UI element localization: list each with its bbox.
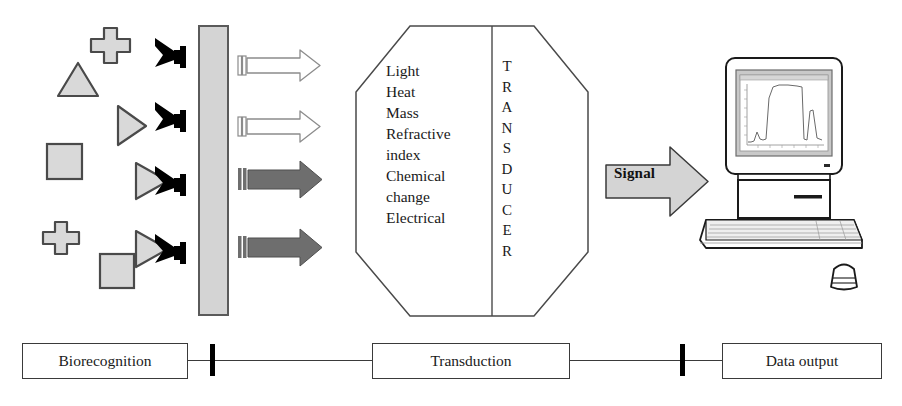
arrow-dark-1 (238, 161, 322, 198)
transducer-letter-5: D (496, 159, 518, 180)
computer-mouse (831, 265, 857, 290)
transducer-letter-1: R (496, 77, 518, 98)
transducer-letter-4: S (496, 138, 518, 159)
data-output-computer (694, 54, 884, 304)
transducer-letter-0: T (496, 56, 518, 77)
transducer-letter-2: A (496, 97, 518, 118)
analyte-triangle-up (58, 63, 98, 96)
transducer-letter-3: N (496, 118, 518, 139)
flow-step-transduction[interactable]: Transduction (372, 343, 570, 379)
flow-tick-2 (680, 344, 685, 376)
computer-base (738, 174, 830, 218)
antibody-1 (155, 38, 186, 68)
transducer-letter-7: C (496, 200, 518, 221)
flow-step-data-output[interactable]: Data output (722, 343, 882, 379)
transducer-letter-9: R (496, 241, 518, 262)
arrow-dark-2 (238, 229, 322, 266)
transducer-vertical-label: T R A N S D U C E R (496, 56, 518, 261)
antibody-2 (155, 102, 186, 132)
transducer-letter-8: E (496, 220, 518, 241)
transducer-properties-list: Light Heat Mass Refractive index Chemica… (386, 60, 496, 228)
analyte-square-upper (47, 144, 82, 179)
transduction-arrow-layer (236, 40, 356, 290)
sensing-membrane (199, 26, 228, 315)
membrane-and-receptors (128, 20, 238, 325)
arrow-light-2 (238, 111, 320, 142)
transducer-letter-6: U (496, 179, 518, 200)
arrow-light-1 (238, 50, 320, 81)
flow-tick-1 (210, 344, 215, 376)
analyte-cross-upper (91, 28, 130, 63)
signal-label: Signal (614, 165, 655, 182)
computer-keyboard (700, 220, 862, 248)
analyte-cross-lower (43, 222, 79, 254)
computer-monitor (726, 58, 842, 174)
flow-line-2 (568, 360, 722, 361)
biosensor-diagram: Light Heat Mass Refractive index Chemica… (0, 0, 902, 406)
flow-step-biorecognition[interactable]: Biorecognition (22, 343, 188, 379)
